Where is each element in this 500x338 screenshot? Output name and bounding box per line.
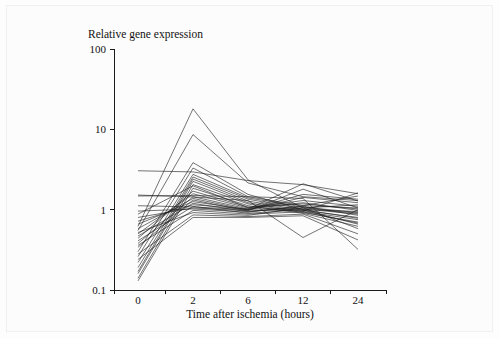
page-title: Relative gene expression [88,28,203,41]
y-tick-label: 1 [101,204,107,216]
x-tick-label: 2 [190,294,196,306]
series-line [138,171,358,194]
line-chart: 1001010.10261224 Relative gene expressio… [0,0,500,338]
series-group [138,109,358,281]
x-tick-label: 12 [298,294,309,306]
figure-root: 1001010.10261224 Relative gene expressio… [0,0,500,338]
x-axis-title: Time after ischemia (hours) [186,308,314,321]
x-tick-label: 24 [353,294,365,306]
axis-group [110,49,386,294]
x-tick-label: 0 [135,294,141,306]
y-tick-label: 0.1 [92,284,106,296]
series-line [138,181,358,273]
y-tick-label: 10 [95,123,107,135]
axis-labels-group: 1001010.10261224 [90,43,365,306]
y-tick-label: 100 [90,43,107,55]
x-tick-label: 6 [245,294,251,306]
